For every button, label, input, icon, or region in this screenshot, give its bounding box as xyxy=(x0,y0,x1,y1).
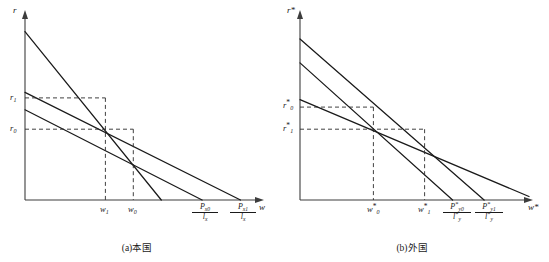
x-tick-label-w0-a: w0 xyxy=(128,205,137,214)
curve-steep-a xyxy=(25,32,161,200)
y-tick-label-r0star-b: r*0 xyxy=(283,101,293,110)
panel-b-plot xyxy=(275,0,549,262)
figure-container: r1 r0 r w w1 w0 Px0 lx Px1 lx (a)本国 xyxy=(0,0,549,262)
y-axis-arrowhead-a xyxy=(22,10,28,19)
x-tick-label-w1-a: w1 xyxy=(100,205,109,214)
y-tick-label-r1star-b: r*1 xyxy=(283,124,293,133)
y-axis-arrowhead-b xyxy=(297,10,303,19)
curve-flat-inner-a xyxy=(25,110,202,200)
panel-a-caption: (a)本国 xyxy=(0,240,274,254)
curve-flat-b xyxy=(300,100,529,197)
x-fraction-Py1star-over-lystar-b: P*y1 l*y xyxy=(475,203,503,222)
y-axis-name-a: r xyxy=(13,5,17,15)
x-fraction-Px1-over-lx-a: Px1 lx xyxy=(230,203,256,222)
panel-foreign-country: r*0 r*1 r* w* w*0 w*1 P*y0 l*y P*y1 l*y … xyxy=(275,0,549,262)
curve-flat-outer-a xyxy=(25,92,241,200)
x-fraction-Py0star-over-lystar-b: P*y0 l*y xyxy=(443,203,471,222)
curve-steep-outer-b xyxy=(300,39,484,200)
x-axis-name-a: w xyxy=(259,202,265,212)
x-fraction-Px0-over-lx-a: Px0 lx xyxy=(192,203,218,222)
y-tick-label-r1-a: r1 xyxy=(10,93,16,102)
panel-b-caption: (b)外国 xyxy=(275,240,549,254)
panel-home-country: r1 r0 r w w1 w0 Px0 lx Px1 lx (a)本国 xyxy=(0,0,274,262)
x-axis-name-b: w* xyxy=(528,202,539,212)
x-tick-label-w0star-b: w*0 xyxy=(367,205,379,214)
x-tick-label-w1star-b: w*1 xyxy=(418,205,430,214)
y-tick-label-r0-a: r0 xyxy=(10,124,16,133)
panel-a-plot xyxy=(0,0,274,262)
y-axis-name-b: r* xyxy=(287,5,295,15)
